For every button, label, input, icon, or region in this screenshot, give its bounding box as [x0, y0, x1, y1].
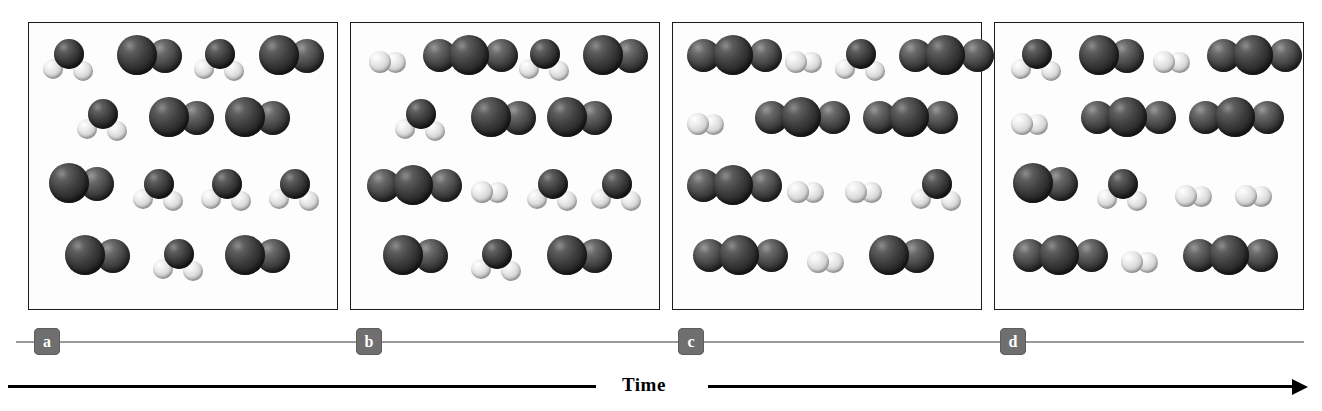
panel-container	[0, 0, 1322, 320]
molecule-bent-triatomic	[43, 39, 95, 83]
panel-label-group-a: a	[16, 322, 338, 362]
hydrogen-atom-sphere	[787, 181, 809, 203]
panel-label-group-d: d	[982, 322, 1304, 362]
molecule-bent-triatomic	[911, 169, 963, 213]
heavy-atom-sphere	[485, 39, 518, 72]
molecule-light-diatomic	[785, 51, 823, 73]
molecule-dark-diatomic	[49, 163, 119, 203]
hydrogen-atom-sphere	[1175, 185, 1197, 207]
hydrogen-atom-sphere	[845, 181, 867, 203]
heavy-atom-sphere	[88, 99, 118, 129]
heavy-atom-sphere	[1251, 101, 1284, 134]
molecule-dark-diatomic	[1079, 35, 1149, 75]
heavy-atom-sphere	[54, 39, 84, 69]
molecule-linear-triatomic	[687, 35, 783, 75]
hydrogen-atom-sphere	[1153, 51, 1175, 73]
time-axis: Time	[0, 372, 1322, 402]
heavy-atom-sphere	[583, 35, 623, 75]
panel-b	[350, 22, 660, 310]
molecule-dark-diatomic	[869, 235, 939, 275]
heavy-atom-sphere	[602, 169, 632, 199]
panel-label-badge-c: c	[678, 328, 704, 355]
hydrogen-atom-sphere	[807, 251, 829, 273]
panel-label-line	[982, 341, 1304, 343]
arrow-right-icon	[1292, 379, 1308, 395]
heavy-atom-sphere	[869, 235, 909, 275]
heavy-atom-sphere	[1209, 235, 1249, 275]
molecule-bent-triatomic	[153, 239, 205, 283]
molecule-linear-triatomic	[1207, 35, 1303, 75]
molecule-bent-triatomic	[77, 99, 129, 143]
molecule-light-diatomic	[1153, 51, 1191, 73]
molecule-bent-triatomic	[519, 39, 571, 83]
heavy-atom-sphere	[225, 97, 265, 137]
heavy-atom-sphere	[164, 239, 194, 269]
molecule-light-diatomic	[1121, 251, 1159, 273]
heavy-atom-sphere	[149, 97, 189, 137]
heavy-atom-sphere	[1269, 39, 1302, 72]
molecule-bent-triatomic	[1011, 39, 1063, 83]
molecule-bent-triatomic	[269, 169, 321, 213]
molecule-dark-diatomic	[117, 35, 187, 75]
molecule-dark-diatomic	[547, 97, 617, 137]
heavy-atom-sphere	[961, 39, 994, 72]
heavy-atom-sphere	[144, 169, 174, 199]
heavy-atom-sphere	[429, 169, 462, 202]
molecule-dark-diatomic	[65, 235, 135, 275]
molecule-linear-triatomic	[1189, 97, 1285, 137]
heavy-atom-sphere	[1233, 35, 1273, 75]
hydrogen-atom-sphere	[471, 181, 493, 203]
molecule-light-diatomic	[787, 181, 825, 203]
heavy-atom-sphere	[1039, 235, 1079, 275]
heavy-atom-sphere	[1022, 39, 1052, 69]
molecule-light-diatomic	[845, 181, 883, 203]
heavy-atom-sphere	[781, 97, 821, 137]
heavy-atom-sphere	[817, 101, 850, 134]
heavy-atom-sphere	[925, 101, 958, 134]
heavy-atom-sphere	[846, 39, 876, 69]
molecule-bent-triatomic	[194, 39, 246, 83]
panel-label-line	[660, 341, 982, 343]
molecule-linear-triatomic	[1183, 235, 1279, 275]
hydrogen-atom-sphere	[785, 51, 807, 73]
heavy-atom-sphere	[482, 239, 512, 269]
molecule-light-diatomic	[1235, 185, 1273, 207]
heavy-atom-sphere	[49, 163, 89, 203]
panel-a	[28, 22, 338, 310]
heavy-atom-sphere	[1108, 169, 1138, 199]
molecule-light-diatomic	[369, 51, 407, 73]
heavy-atom-sphere	[406, 99, 436, 129]
heavy-atom-sphere	[749, 39, 782, 72]
molecule-linear-triatomic	[863, 97, 959, 137]
heavy-atom-sphere	[471, 97, 511, 137]
heavy-atom-sphere	[212, 169, 242, 199]
molecular-reaction-progress-figure: a b c d Time	[0, 0, 1322, 411]
molecule-linear-triatomic	[899, 35, 995, 75]
heavy-atom-sphere	[1143, 101, 1176, 134]
molecule-bent-triatomic	[591, 169, 643, 213]
heavy-atom-sphere	[1107, 97, 1147, 137]
molecule-linear-triatomic	[687, 165, 783, 205]
heavy-atom-sphere	[280, 169, 310, 199]
molecule-light-diatomic	[1175, 185, 1213, 207]
heavy-atom-sphere	[65, 235, 105, 275]
heavy-atom-sphere	[547, 97, 587, 137]
hydrogen-atom-sphere	[369, 51, 391, 73]
molecule-bent-triatomic	[527, 169, 579, 213]
panel-label-badge-b: b	[356, 328, 382, 355]
heavy-atom-sphere	[547, 235, 587, 275]
molecule-dark-diatomic	[547, 235, 617, 275]
hydrogen-atom-sphere	[1011, 113, 1033, 135]
panel-label-group-c: c	[660, 322, 982, 362]
molecule-dark-diatomic	[149, 97, 219, 137]
molecule-dark-diatomic	[225, 97, 295, 137]
time-axis-line-left	[8, 385, 596, 388]
molecule-linear-triatomic	[693, 235, 789, 275]
panel-label-badge-d: d	[1000, 328, 1026, 355]
time-axis-line-right	[708, 385, 1296, 388]
hydrogen-atom-sphere	[1235, 185, 1257, 207]
heavy-atom-sphere	[755, 239, 788, 272]
molecule-bent-triatomic	[835, 39, 887, 83]
panel-label-line	[338, 341, 660, 343]
molecule-bent-triatomic	[471, 239, 523, 283]
